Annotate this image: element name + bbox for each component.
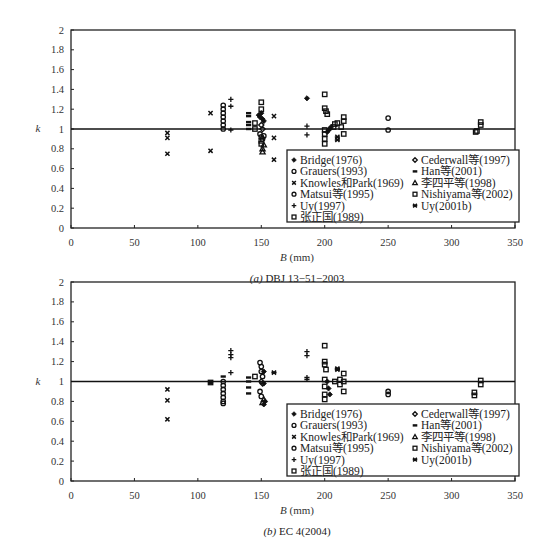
data-point (260, 374, 264, 378)
data-point (246, 124, 251, 126)
y-axis-label: k (36, 375, 42, 387)
series-Han等(2001) (246, 112, 251, 130)
data-point (472, 393, 476, 397)
x-tick-label: 350 (507, 490, 523, 501)
data-point (258, 389, 262, 393)
data-point (165, 398, 169, 402)
x-tick-label: 300 (444, 237, 460, 248)
data-point (246, 392, 251, 394)
data-point (479, 123, 483, 127)
legend: Bridge(1976)Grauers(1993)Knowles和Park(19… (287, 150, 519, 224)
y-tick-label: 0.4 (51, 183, 65, 194)
x-tick-label: 250 (380, 237, 396, 248)
data-point (208, 111, 212, 115)
y-tick-label: 0.4 (51, 436, 65, 447)
x-tick-label: 50 (129, 237, 140, 248)
data-point (327, 392, 332, 397)
y-tick-label: 1.2 (51, 356, 64, 367)
data-point (228, 355, 233, 360)
legend-marker-icon (413, 170, 418, 172)
x-tick-label: 0 (68, 490, 73, 501)
series-Nishiyama等(2002) (323, 106, 483, 136)
x-tick-label: 0 (68, 237, 73, 248)
panel-caption: (a) DBJ 13−51−2003 (250, 272, 345, 285)
data-point (323, 343, 327, 347)
data-point (228, 97, 233, 102)
x-tick-label: 300 (444, 490, 460, 501)
legend-label: Uy(2001b) (421, 454, 472, 467)
data-point (386, 116, 390, 120)
x-axis-label: B (mm) (280, 251, 314, 264)
data-point (342, 132, 346, 136)
x-tick-label: 150 (253, 237, 269, 248)
legend-item: 张正国(1989) (292, 211, 364, 224)
y-tick-label: 1.2 (51, 104, 64, 115)
data-point (165, 417, 169, 421)
data-point (165, 152, 169, 156)
panel-caption: (b) EC 4(2004) (263, 525, 331, 538)
legend-item: Uy(2001b) (413, 200, 472, 213)
y-tick-label: 0.6 (51, 163, 64, 174)
data-point (246, 121, 251, 123)
legend-item: Uy(2001b) (413, 454, 472, 467)
y-tick-label: 1 (59, 124, 64, 135)
x-tick-label: 100 (190, 490, 206, 501)
y-tick-label: 1.4 (51, 84, 65, 95)
data-point (323, 142, 327, 146)
data-point (304, 96, 309, 101)
legend-label: Uy(2001b) (421, 200, 472, 213)
legend-marker-icon (413, 424, 418, 426)
data-point (246, 112, 251, 114)
chart-b: 00.20.40.60.811.21.41.61.820501001502002… (36, 277, 523, 539)
series-Uy(1997) (228, 97, 309, 138)
y-tick-label: 1 (59, 376, 64, 387)
data-point (324, 367, 328, 371)
data-point (323, 392, 327, 396)
x-tick-label: 150 (253, 490, 269, 501)
y-tick-label: 1.6 (51, 64, 64, 75)
data-point (165, 136, 169, 140)
data-point (304, 353, 309, 358)
y-tick-label: 0.6 (51, 416, 64, 427)
data-point (228, 104, 233, 109)
data-point (304, 132, 309, 137)
data-point (323, 359, 327, 363)
x-tick-label: 50 (129, 490, 140, 501)
data-point (221, 375, 226, 377)
data-point (271, 370, 276, 374)
y-tick-label: 0.2 (51, 203, 64, 214)
y-tick-label: 2 (59, 277, 64, 288)
data-point (272, 114, 276, 118)
legend-label: 张正国(1989) (300, 465, 364, 478)
x-tick-label: 100 (190, 237, 206, 248)
data-point (259, 100, 263, 104)
data-point (165, 387, 169, 391)
x-axis-label: B (mm) (280, 504, 314, 517)
data-point (304, 123, 309, 128)
y-tick-label: 2 (59, 25, 64, 36)
data-point (165, 131, 169, 135)
series-Uy(2001b) (335, 135, 340, 142)
legend-item: 张正国(1989) (292, 465, 364, 478)
data-point (228, 127, 233, 132)
data-point (323, 92, 327, 96)
legend-label: 张正国(1989) (300, 211, 364, 224)
data-point (335, 138, 340, 142)
data-point (272, 158, 276, 162)
data-point (479, 120, 483, 124)
data-point (246, 386, 251, 388)
y-tick-label: 1.6 (51, 316, 64, 327)
data-point (386, 389, 390, 393)
data-point (228, 370, 233, 375)
y-tick-label: 0.8 (51, 396, 64, 407)
y-tick-label: 1.8 (51, 44, 64, 55)
data-point (342, 389, 346, 393)
data-point (272, 136, 276, 140)
y-tick-label: 0 (59, 223, 64, 234)
y-tick-label: 0.2 (51, 456, 64, 467)
x-tick-label: 200 (317, 490, 333, 501)
figure: 00.20.40.60.811.21.41.61.820501001502002… (0, 0, 546, 551)
data-point (208, 149, 212, 153)
y-tick-label: 1.4 (51, 336, 65, 347)
data-point (323, 137, 327, 141)
